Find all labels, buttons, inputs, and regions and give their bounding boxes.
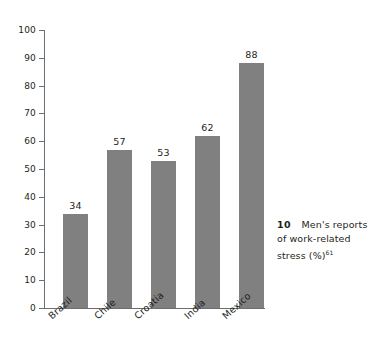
y-tick-label: 90 bbox=[8, 53, 36, 63]
figure-caption: 10 Men's reports of work-related stress … bbox=[277, 218, 369, 263]
y-tick-label: 40 bbox=[8, 192, 36, 202]
y-axis-tick bbox=[39, 252, 44, 253]
y-axis-tick bbox=[39, 197, 44, 198]
y-tick-label: 30 bbox=[8, 220, 36, 230]
y-axis-tick bbox=[39, 280, 44, 281]
y-axis-tick bbox=[39, 113, 44, 114]
y-tick-label: 50 bbox=[8, 164, 36, 174]
plot-area: 34 57 53 62 88 bbox=[44, 30, 265, 308]
y-tick-label: 70 bbox=[8, 108, 36, 118]
figure-caption-number: 10 bbox=[277, 219, 298, 230]
bar-value-india: 62 bbox=[188, 122, 228, 133]
bar-value-croatia: 53 bbox=[144, 147, 184, 158]
y-tick-label: 60 bbox=[8, 136, 36, 146]
bar-mexico[interactable] bbox=[239, 63, 264, 308]
y-tick-label: 0 bbox=[8, 303, 36, 313]
y-axis-tick bbox=[39, 225, 44, 226]
y-axis-tick bbox=[39, 86, 44, 87]
y-axis-tick bbox=[39, 169, 44, 170]
y-axis-tick bbox=[39, 308, 44, 309]
figure-caption-footnote-marker: 61 bbox=[326, 249, 334, 256]
y-axis-tick bbox=[39, 30, 44, 31]
y-tick-label: 10 bbox=[8, 275, 36, 285]
bar-value-brazil: 34 bbox=[56, 200, 96, 211]
y-tick-label: 80 bbox=[8, 81, 36, 91]
y-axis-tick bbox=[39, 58, 44, 59]
y-axis-tick bbox=[39, 141, 44, 142]
figure-men-work-related-stress: 100 90 80 70 60 50 40 30 20 10 0 34 57 5… bbox=[0, 0, 373, 360]
bar-croatia[interactable] bbox=[151, 161, 176, 308]
bar-value-mexico: 88 bbox=[232, 49, 272, 60]
y-tick-label: 100 bbox=[8, 25, 36, 35]
bar-value-chile: 57 bbox=[100, 136, 140, 147]
y-tick-label: 20 bbox=[8, 247, 36, 257]
bar-chile[interactable] bbox=[107, 150, 132, 309]
y-axis-line bbox=[44, 30, 45, 308]
bar-india[interactable] bbox=[195, 136, 220, 308]
